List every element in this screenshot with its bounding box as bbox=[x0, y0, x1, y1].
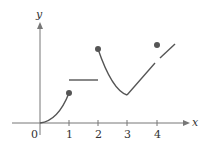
line-4-end bbox=[160, 44, 175, 58]
origin-label: 0 bbox=[31, 128, 38, 141]
tick-label-2: 2 bbox=[95, 128, 102, 141]
tick-label-3: 3 bbox=[124, 128, 131, 141]
curve-0-1 bbox=[40, 93, 69, 123]
x-axis-label: x bbox=[192, 116, 199, 129]
curve-2-3 bbox=[98, 49, 127, 95]
line-3-4 bbox=[127, 63, 155, 95]
closed-dot-x1 bbox=[66, 90, 72, 96]
y-axis-label: y bbox=[35, 8, 43, 21]
x-axis-arrow-icon bbox=[183, 120, 190, 126]
y-axis-arrow-icon bbox=[37, 22, 43, 29]
piecewise-graph: y x 0 1 2 3 4 bbox=[0, 0, 203, 145]
closed-dot-x4 bbox=[154, 42, 160, 48]
tick-label-4: 4 bbox=[154, 128, 161, 141]
tick-label-1: 1 bbox=[66, 128, 73, 141]
